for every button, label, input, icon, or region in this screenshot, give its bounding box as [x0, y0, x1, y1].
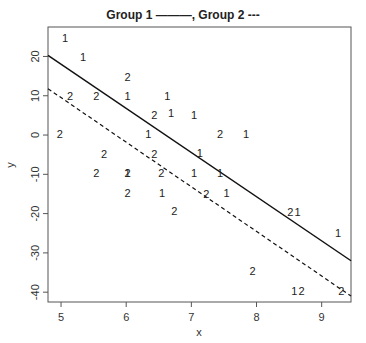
- data-point: 1: [335, 227, 341, 239]
- data-point: 1: [168, 107, 174, 119]
- data-point: 1: [191, 109, 197, 121]
- data-point: 1: [191, 167, 197, 179]
- x-axis-label: x: [196, 326, 202, 338]
- scatter-plot: 56789-40-30-20-1001020 11111111111111111…: [0, 0, 366, 343]
- data-point: 1: [62, 32, 68, 44]
- data-points: 11111111111111111222222222222222222: [57, 32, 345, 297]
- data-point: 1: [164, 90, 170, 102]
- plot-frame: [48, 27, 351, 302]
- y-tick-label: 10: [29, 90, 41, 102]
- x-tick-label: 5: [58, 311, 64, 323]
- x-tick-label: 7: [188, 311, 194, 323]
- data-point: 1: [217, 167, 223, 179]
- data-point: 1: [291, 285, 297, 297]
- data-point: 1: [159, 187, 165, 199]
- x-tick-label: 6: [123, 311, 129, 323]
- x-tick-label: 9: [319, 311, 325, 323]
- data-point: 2: [151, 148, 157, 160]
- y-axis-label: y: [4, 162, 16, 168]
- data-point: 2: [151, 109, 157, 121]
- data-point: 2: [203, 188, 209, 200]
- data-point: 2: [101, 148, 107, 160]
- data-point: 2: [287, 206, 293, 218]
- data-point: 1: [197, 147, 203, 159]
- axis-ticks: 56789-40-30-20-1001020: [29, 50, 325, 323]
- data-point: 2: [171, 205, 177, 217]
- data-point: 2: [93, 167, 99, 179]
- y-tick-label: -30: [29, 245, 41, 261]
- data-point: 1: [223, 187, 229, 199]
- data-point: 2: [158, 167, 164, 179]
- data-point: 1: [124, 90, 130, 102]
- data-point: 2: [124, 187, 130, 199]
- data-point: 1: [80, 51, 86, 63]
- y-tick-label: 0: [29, 132, 41, 138]
- data-point: 2: [124, 71, 130, 83]
- data-point: 2: [124, 167, 130, 179]
- data-point: 2: [93, 90, 99, 102]
- data-point: 2: [67, 90, 73, 102]
- data-point: 2: [217, 128, 223, 140]
- y-tick-label: -20: [29, 206, 41, 222]
- data-point: 2: [250, 265, 256, 277]
- data-point: 1: [243, 128, 249, 140]
- data-point: 1: [145, 128, 151, 140]
- data-point: 1: [295, 206, 301, 218]
- data-point: 2: [298, 285, 304, 297]
- data-point: 2: [338, 285, 344, 297]
- data-point: 2: [57, 128, 63, 140]
- y-tick-label: -10: [29, 166, 41, 182]
- y-tick-label: -40: [29, 284, 41, 300]
- x-tick-label: 8: [253, 311, 259, 323]
- y-tick-label: 20: [29, 50, 41, 62]
- group2-fit-line: [48, 89, 351, 296]
